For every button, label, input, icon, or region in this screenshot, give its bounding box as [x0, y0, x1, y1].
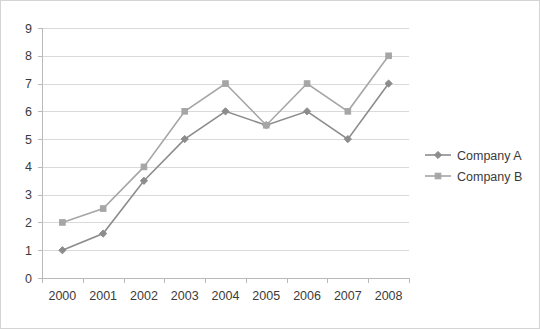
- data-point-marker: [100, 206, 106, 212]
- series-company-a: [59, 80, 392, 254]
- x-axis-tick-labels: 200020012002200320042005200620072008: [48, 289, 402, 303]
- y-axis-tick-label: 1: [25, 244, 32, 258]
- x-axis-tick-label: 2008: [375, 289, 403, 303]
- legend-marker: [435, 173, 441, 179]
- data-point-marker: [182, 109, 188, 115]
- y-axis-tick-label: 5: [25, 133, 32, 147]
- x-axis-tick-label: 2004: [212, 289, 240, 303]
- x-axis-tick-label: 2003: [171, 289, 199, 303]
- data-point-marker: [60, 220, 66, 226]
- y-axis-tick-label: 8: [25, 49, 32, 63]
- chart-container: 0123456789 20002001200220032004200520062…: [0, 0, 540, 329]
- gridlines-group: [42, 29, 409, 279]
- data-point-marker: [386, 53, 392, 59]
- x-axis-tick-label: 2006: [293, 289, 321, 303]
- y-axis-tick-marks: [38, 29, 42, 279]
- y-axis-tick-label: 2: [25, 216, 32, 230]
- y-axis-tick-label: 6: [25, 105, 32, 119]
- x-axis-tick-label: 2000: [48, 289, 76, 303]
- y-axis-tick-label: 4: [25, 160, 32, 174]
- y-axis-tick-label: 3: [25, 188, 32, 202]
- data-point-marker: [223, 81, 229, 87]
- x-axis-tick-label: 2001: [89, 289, 117, 303]
- data-point-marker: [345, 109, 351, 115]
- legend-label: Company A: [457, 149, 522, 163]
- x-axis-tick-label: 2007: [334, 289, 362, 303]
- y-axis-tick-label: 0: [25, 272, 32, 286]
- x-axis-tick-label: 2005: [252, 289, 280, 303]
- data-point-marker: [304, 81, 310, 87]
- data-series-group: [59, 53, 392, 254]
- data-point-marker: [263, 122, 269, 128]
- legend-item-company-a[interactable]: Company A: [425, 149, 522, 163]
- y-axis-tick-label: 7: [25, 77, 32, 91]
- chart-legend: Company ACompany B: [425, 149, 522, 184]
- data-point-marker: [59, 247, 66, 254]
- data-point-marker: [141, 164, 147, 170]
- x-axis-tick-label: 2002: [130, 289, 158, 303]
- legend-marker: [434, 151, 441, 158]
- y-axis-tick-labels: 0123456789: [25, 22, 32, 286]
- y-axis-tick-label: 9: [25, 22, 32, 36]
- legend-item-company-b[interactable]: Company B: [425, 170, 522, 184]
- legend-label: Company B: [457, 170, 522, 184]
- line-chart: 0123456789 20002001200220032004200520062…: [1, 1, 540, 329]
